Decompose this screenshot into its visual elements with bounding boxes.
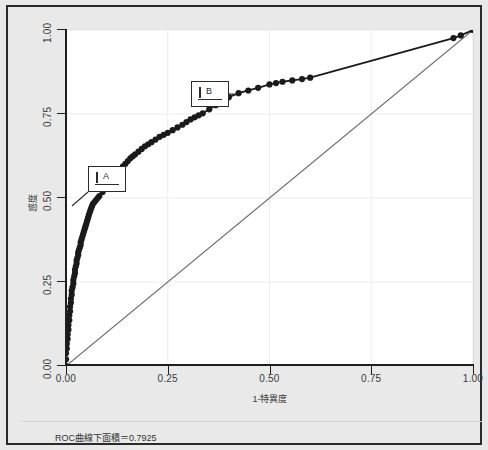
callout-b-label: B: [206, 86, 212, 96]
caption-divider: [22, 421, 482, 422]
callout-box-a[interactable]: A: [88, 166, 126, 192]
y-axis-spine: [65, 29, 67, 366]
x-tick-label: 1.00: [463, 373, 483, 384]
y-tick-mark: [57, 281, 65, 282]
callout-a-underline: [95, 184, 119, 185]
callout-b-bar-icon: [199, 87, 201, 98]
auc-caption: ROC曲線下面積＝0.7925: [55, 431, 157, 444]
y-tick-label: 0.50: [42, 191, 53, 211]
y-tick-label: 0.00: [42, 359, 53, 379]
plot-area: [66, 29, 474, 366]
roc-plot-svg: [66, 30, 473, 366]
callout-box-b[interactable]: B: [191, 81, 229, 107]
x-tick-label: 0.00: [56, 373, 76, 384]
figure-frame: 0.000.250.500.751.00 0.000.250.500.751.0…: [6, 5, 482, 445]
x-tick-label: 0.50: [259, 373, 279, 384]
x-tick-label: 0.75: [361, 373, 381, 384]
callout-a-label: A: [103, 171, 109, 181]
y-tick-label: 0.25: [42, 275, 53, 295]
y-tick-mark: [57, 29, 65, 30]
y-tick-mark: [57, 197, 65, 198]
y-tick-mark: [57, 113, 65, 114]
y-tick-label: 0.75: [42, 107, 53, 127]
callout-b-underline: [198, 99, 222, 100]
x-tick-label: 0.25: [158, 373, 178, 384]
y-tick-label: 1.00: [42, 23, 53, 43]
callout-a-bar-icon: [96, 172, 98, 183]
x-axis-title: 1-特異度: [252, 392, 287, 405]
roc-chart-figure: 0.000.250.500.751.00 0.000.250.500.751.0…: [0, 0, 488, 450]
y-tick-mark: [57, 365, 65, 366]
y-axis-title: 感度: [26, 194, 39, 212]
